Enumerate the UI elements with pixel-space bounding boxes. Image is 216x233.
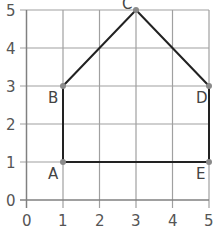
label-d: D — [196, 89, 208, 107]
label-e: E — [196, 165, 205, 183]
y-tick-labels: 0 1 2 3 4 5 — [6, 2, 16, 210]
point-c — [133, 7, 139, 13]
pentagon-grid-diagram: A B C D E 0 1 2 3 4 5 0 1 2 3 4 5 — [0, 0, 216, 233]
label-c: C — [122, 0, 132, 13]
x-tick-labels: 0 1 2 3 4 5 — [22, 212, 214, 230]
svg-text:5: 5 — [6, 2, 16, 20]
svg-text:3: 3 — [6, 78, 16, 96]
point-labels: A B C D E — [48, 0, 208, 183]
svg-text:1: 1 — [6, 154, 16, 172]
point-b — [60, 83, 66, 89]
svg-text:0: 0 — [22, 212, 32, 230]
svg-text:4: 4 — [168, 212, 178, 230]
point-a — [60, 159, 66, 165]
point-e — [206, 159, 212, 165]
svg-text:2: 2 — [6, 116, 16, 134]
label-b: B — [48, 89, 58, 107]
svg-text:0: 0 — [6, 192, 16, 210]
svg-text:4: 4 — [6, 40, 16, 58]
label-a: A — [48, 165, 59, 183]
svg-text:1: 1 — [58, 212, 68, 230]
svg-text:5: 5 — [204, 212, 214, 230]
svg-text:2: 2 — [95, 212, 105, 230]
svg-text:3: 3 — [131, 212, 141, 230]
